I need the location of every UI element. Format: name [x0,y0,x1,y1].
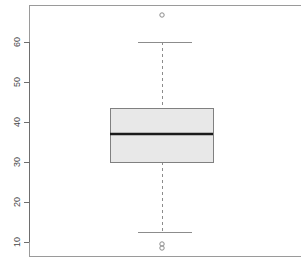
y-tick-label-40: 40 [12,117,22,127]
y-tick-label-30: 30 [12,157,22,167]
y-tick-label-20: 20 [12,197,22,207]
y-tick-label-50: 50 [12,77,22,87]
boxplot-figure: 60 50 40 30 20 10 [0,0,301,259]
box-iqr-rect [111,109,214,163]
y-tick-label-60: 60 [12,37,22,47]
y-tick-label-10: 10 [12,237,22,247]
boxplot-canvas: 60 50 40 30 20 10 [0,0,301,259]
